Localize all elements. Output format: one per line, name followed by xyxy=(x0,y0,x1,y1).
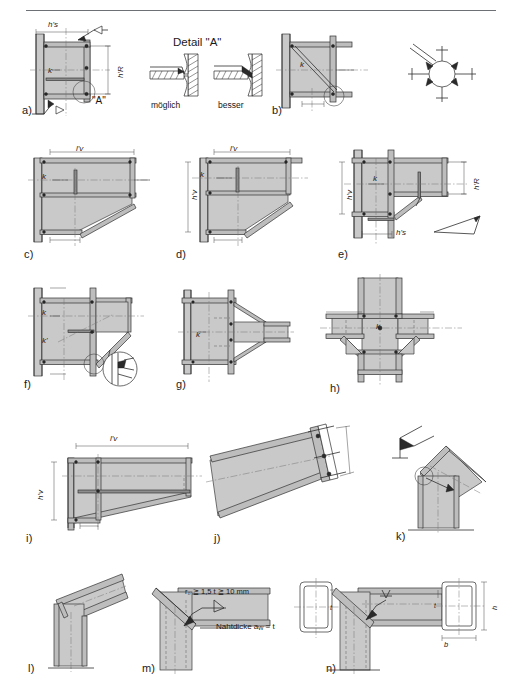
label-h-n: h xyxy=(490,606,499,610)
caption-c: c) xyxy=(24,248,34,260)
figure-n xyxy=(322,570,452,674)
figure-a xyxy=(22,18,152,118)
figure-e-weld-symbol xyxy=(430,208,486,242)
detail-a-moeglich xyxy=(148,52,208,98)
label-k-e: k xyxy=(373,174,377,183)
detail-panel-title: Detail "A" xyxy=(173,36,221,48)
label-k-b: k xyxy=(300,60,304,69)
figure-k xyxy=(378,424,498,536)
label-h-R-a: h'R xyxy=(116,66,125,78)
caption-g: g) xyxy=(176,378,186,390)
label-l-v-c: l'v xyxy=(76,144,83,153)
detail-a-besser xyxy=(212,52,272,98)
figure-j xyxy=(204,424,354,536)
figure-f-weld-detail xyxy=(98,348,144,390)
label-k-a: k xyxy=(48,66,52,75)
caption-i: i) xyxy=(26,532,33,544)
label-b-n: b xyxy=(444,640,448,649)
caption-d: d) xyxy=(176,248,186,260)
caption-e: e) xyxy=(338,248,348,260)
note-weld-thickness: Nahtdicke aᵥᵥ = t xyxy=(216,622,275,631)
label-h-s-a: h's xyxy=(48,20,58,29)
note-radius: r₀ ≧ 1,5 t ≧ 10 mm xyxy=(185,587,249,596)
label-h-s-e: h's xyxy=(396,228,406,237)
label-besser: besser xyxy=(218,100,244,110)
label-h-R-e: h'R xyxy=(472,178,481,190)
label-moeglich: möglich xyxy=(151,100,180,110)
label-h-v-d: h'v xyxy=(190,190,199,200)
figure-c xyxy=(24,140,160,246)
label-k-h: k xyxy=(376,322,380,331)
caption-b: b) xyxy=(272,104,282,116)
caption-f: f) xyxy=(24,378,31,390)
figure-l xyxy=(30,572,130,672)
label-h-v-e: h'v xyxy=(345,190,354,200)
caption-k: k) xyxy=(396,530,406,542)
label-k-c: k xyxy=(42,172,46,181)
figure-n-section xyxy=(434,576,492,646)
figure-b-node-detail xyxy=(400,42,486,106)
label-k-d: k xyxy=(200,170,204,179)
label-l-v-d: l'v xyxy=(230,144,237,153)
caption-l: l) xyxy=(28,662,35,674)
header-rule xyxy=(26,10,496,11)
figure-b xyxy=(272,28,392,112)
caption-n: n) xyxy=(326,662,336,674)
label-t-n: t xyxy=(434,602,436,609)
caption-j: j) xyxy=(214,532,221,544)
caption-a: a) xyxy=(22,104,32,116)
label-k-g: k xyxy=(196,330,200,339)
label-k-f: k xyxy=(42,308,46,317)
caption-m: m) xyxy=(142,662,155,674)
figure-h xyxy=(316,272,466,388)
label-l-v-i: l'v xyxy=(110,434,117,443)
callout-detail-a: "A" xyxy=(92,95,106,106)
label-h-v-i: h'v xyxy=(36,490,45,500)
label-k-prime-f: k' xyxy=(42,336,48,345)
figure-sheet: h's h'R k "A" a) Detail "A" möglich xyxy=(0,0,508,691)
caption-h: h) xyxy=(330,382,340,394)
figure-g xyxy=(176,280,296,384)
